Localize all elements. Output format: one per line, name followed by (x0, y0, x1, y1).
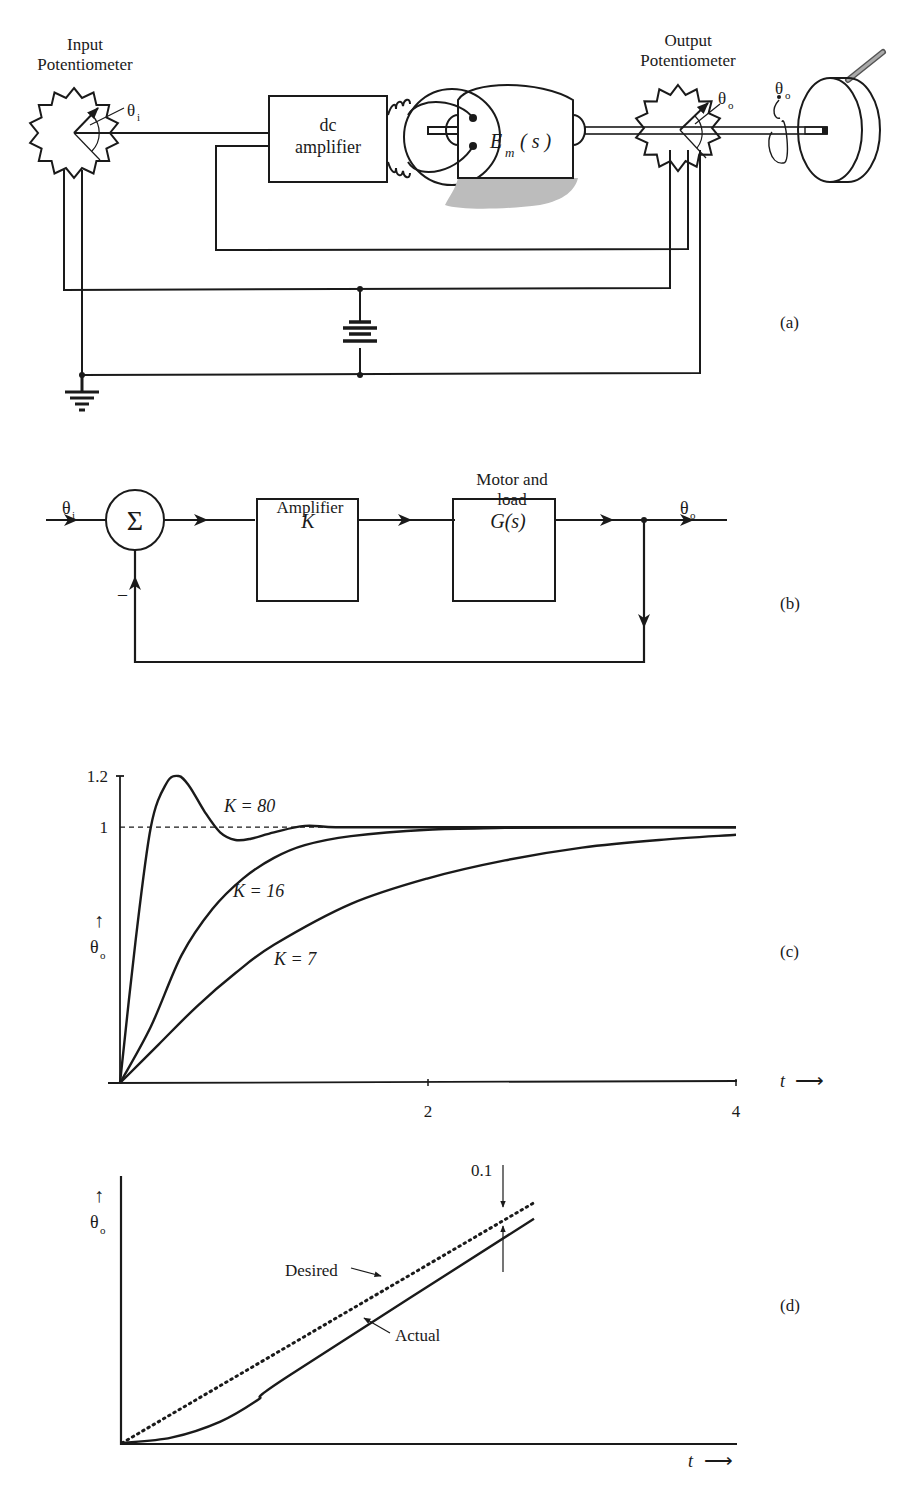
annotation-k80: K = 80 (223, 796, 275, 816)
series-line-k-16 (120, 827, 736, 1083)
motor-body (458, 85, 573, 178)
annotation-k16: K = 16 (232, 881, 284, 901)
figure-canvas: Input Potentiometer θ i (0, 0, 912, 1490)
error-label: 0.1 (471, 1161, 492, 1180)
y-axis-label: θ (90, 937, 99, 957)
input-wiper (74, 108, 124, 160)
motor-lead (408, 146, 473, 172)
input-pot-label-1: Input (67, 35, 103, 54)
rotation-sub: o (785, 89, 791, 101)
panel-c-tag: (c) (780, 942, 799, 961)
rotation-arrow-icon (769, 100, 788, 163)
rotation-arrow-head (777, 95, 781, 99)
motor-rear-bearing (446, 115, 458, 145)
input-angle-sub: i (137, 111, 140, 123)
output-pot-label-2: Potentiometer (640, 51, 736, 70)
amplifier-label-1: dc (320, 115, 337, 135)
ground-icon (65, 375, 99, 410)
panel-c-step-response-chart: 2411.2 K = 80 K = 16 K = 7 ↑ θ o t ⟶ (c) (87, 767, 824, 1121)
input-pot-label-2: Potentiometer (37, 55, 133, 74)
y-axis-sub: o (100, 949, 106, 961)
feedback-path (135, 520, 644, 662)
y-tick-label: 1.2 (87, 767, 108, 786)
motor-emf-arg: ( s ) (520, 130, 551, 153)
x-axis (108, 1081, 737, 1083)
junction-dot (357, 372, 363, 378)
panel-a-tag: (a) (780, 313, 799, 332)
motor-front-bearing (573, 115, 585, 145)
output-shaft (585, 127, 827, 134)
y-axis-arrow: ↑ (94, 909, 104, 931)
motor-emf-sub: m (505, 145, 514, 160)
desired-pointer (351, 1268, 381, 1276)
output-angle-label: θ (718, 89, 726, 108)
output-pot-label-1: Output (664, 31, 712, 50)
input-angle-label: θ (127, 101, 135, 120)
x-tick-label: 4 (732, 1102, 741, 1121)
panel-d-tag: (d) (780, 1296, 800, 1315)
plant-title-1: Motor and (476, 470, 548, 489)
load-disc-icon (798, 52, 883, 182)
plant-transfer-label: G(s) (490, 510, 526, 533)
panel-b-tag: (b) (780, 594, 800, 613)
output-label: θ (680, 498, 689, 518)
y-axis-arrow: ↑ (94, 1184, 104, 1206)
amplifier-gain-label: K (300, 510, 316, 532)
output-angle-sub: o (728, 99, 734, 111)
motor-emf-label: E (489, 130, 502, 152)
series-line-k-80 (120, 776, 736, 1083)
motor-rear-shaft (428, 127, 458, 134)
panel-d-ramp-response-chart: Desired Actual 0.1 ↑ θ o t ⟶ (d) (90, 1161, 800, 1471)
y-axis-label: θ (90, 1212, 99, 1232)
x-axis-arrow: ⟶ (795, 1069, 824, 1091)
panel-a-circuit: Input Potentiometer θ i (30, 31, 883, 410)
battery-icon (343, 322, 377, 341)
junction-dot (357, 286, 363, 292)
series-line-k-7 (120, 835, 736, 1083)
desired-label: Desired (285, 1261, 338, 1280)
minus-sign: – (117, 584, 128, 604)
y-axis-sub: o (100, 1224, 106, 1236)
x-axis-arrow: ⟶ (704, 1449, 733, 1471)
x-axis-label: t (780, 1071, 786, 1091)
y-tick-label: 1 (100, 818, 109, 837)
motor-base-shadow (445, 178, 578, 209)
panel-b-block-diagram: θ i Σ – Amplifier K Motor and load G(s) … (46, 470, 800, 662)
annotation-k7: K = 7 (273, 949, 317, 969)
summing-symbol: Σ (127, 505, 143, 536)
circuit-wires (64, 133, 700, 375)
amplifier-label-2: amplifier (295, 137, 361, 157)
x-tick-label: 2 (424, 1102, 433, 1121)
series-line-actual (122, 1219, 534, 1443)
actual-label: Actual (395, 1326, 441, 1345)
output-sub: o (690, 509, 696, 521)
series-line-desired (122, 1203, 534, 1443)
x-axis-label: t (688, 1451, 694, 1471)
output-potentiometer-icon (636, 85, 720, 171)
